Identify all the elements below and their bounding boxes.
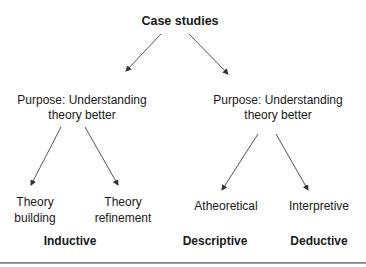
bottom-rule (0, 262, 366, 264)
arrow-root-to-right (189, 34, 228, 74)
arrow-right-to-atheoretical (222, 134, 258, 190)
descriptive-label: Descriptive (182, 234, 248, 249)
arrow-left-to-theory-refinement (85, 127, 118, 185)
atheoretical-node: Atheoretical (186, 199, 266, 214)
arrow-root-to-left (126, 34, 161, 71)
inductive-label: Inductive (40, 234, 100, 249)
deductive-label: Deductive (286, 234, 352, 249)
root-node: Case studies (125, 14, 235, 29)
left-purpose-line2: theory better (0, 108, 164, 123)
left-purpose-line1: Purpose: Understanding (0, 93, 164, 108)
arrow-left-to-theory-building (31, 127, 61, 185)
arrows-layer (0, 0, 366, 267)
theory-building-line1: Theory (5, 195, 65, 210)
arrow-right-to-interpretive (276, 134, 308, 190)
right-purpose-line2: theory better (196, 108, 360, 123)
right-purpose-line1: Purpose: Understanding (196, 93, 360, 108)
theory-refinement-line1: Theory (90, 195, 156, 210)
interpretive-node: Interpretive (284, 199, 354, 214)
theory-refinement-line2: refinement (90, 211, 156, 226)
theory-building-line2: building (5, 211, 65, 226)
